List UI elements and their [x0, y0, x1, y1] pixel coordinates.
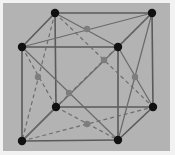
corner-atom-bottom-back-right [149, 103, 157, 111]
corner-atom-bottom-front-left [18, 137, 26, 145]
face-atom-top [84, 26, 90, 32]
face-atom-back [101, 57, 107, 63]
corner-atom-top-back-left [51, 9, 59, 17]
edge-bottom-front [22, 140, 118, 141]
diagram-frame [0, 0, 175, 155]
corner-atom-top-back-right [148, 9, 156, 17]
face-atom-bottom [84, 121, 90, 127]
edge-bottom-right [118, 107, 153, 140]
edge-left-back [55, 13, 56, 107]
face-atom-left [35, 74, 41, 80]
corner-atom-bottom-back-left [52, 103, 60, 111]
edge-right-back [152, 13, 153, 107]
fcc-lattice-diagram [0, 0, 175, 155]
corner-atom-bottom-front-right [114, 136, 122, 144]
face-atom-front [66, 90, 72, 96]
corner-atom-top-front-left [18, 43, 26, 51]
face-atom-right [132, 74, 138, 80]
corner-atom-top-front-right [114, 43, 122, 51]
